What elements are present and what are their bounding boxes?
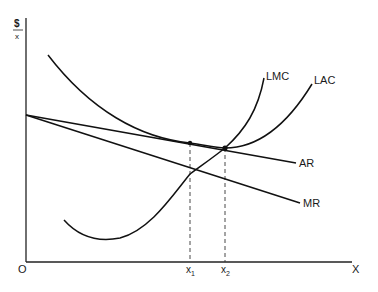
x-axis-label: X bbox=[352, 263, 360, 275]
mr-curve bbox=[26, 115, 300, 203]
cost-revenue-diagram: LMC LAC AR MR $ x O X x1 x2 bbox=[0, 0, 378, 292]
origin-label: O bbox=[18, 263, 27, 275]
intersection-point bbox=[222, 145, 227, 150]
lac-label: LAC bbox=[314, 74, 335, 86]
y-axis-label-x: x bbox=[15, 32, 19, 41]
ar-label: AR bbox=[299, 157, 314, 169]
lmc-label: LMC bbox=[266, 70, 289, 82]
tangency-point bbox=[188, 141, 192, 145]
x1-label: x1 bbox=[186, 264, 195, 277]
mr-label: MR bbox=[303, 197, 320, 209]
y-axis-label-dollar: $ bbox=[14, 18, 20, 29]
x2-label: x2 bbox=[221, 264, 230, 277]
ar-curve bbox=[26, 115, 296, 163]
